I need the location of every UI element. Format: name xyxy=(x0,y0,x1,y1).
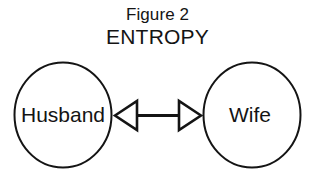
connector-arrowhead-left xyxy=(115,101,137,130)
node-husband: Husband xyxy=(15,63,112,168)
node-wife-label: Wife xyxy=(229,103,271,126)
connector-arrowhead-right xyxy=(179,101,201,130)
entropy-diagram: Husband Wife xyxy=(0,0,315,183)
node-husband-label: Husband xyxy=(21,103,105,126)
entropy-connector xyxy=(115,101,201,130)
figure-canvas: Figure 2 ENTROPY Husband Wife xyxy=(0,0,315,183)
node-wife: Wife xyxy=(204,63,301,168)
